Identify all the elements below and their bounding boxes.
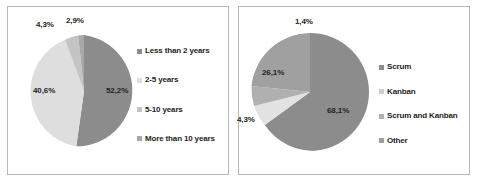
legend-item-more-than-10-years[interactable]: More than 10 years — [137, 135, 215, 143]
legend-swatch-icon — [379, 138, 384, 143]
legend-label: More than 10 years — [145, 135, 215, 143]
right-label-68: 68,1% — [327, 107, 349, 115]
legend-swatch-icon — [137, 49, 142, 54]
legend-swatch-icon — [379, 89, 384, 94]
legend-label: Scrum and Kanban — [387, 112, 458, 120]
two-pie-charts-figure: 52,2% 40,6% 4,3% 2,9% Less than 2 years … — [0, 0, 477, 182]
legend-swatch-icon — [137, 78, 142, 83]
legend-item-2-5-years[interactable]: 2-5 years — [137, 76, 215, 84]
left-legend: Less than 2 years 2-5 years 5-10 years M… — [137, 47, 215, 143]
right-label-4: 4,3% — [237, 116, 255, 124]
legend-label: Less than 2 years — [145, 47, 210, 55]
right-slice-other — [251, 33, 310, 92]
legend-swatch-icon — [379, 65, 384, 70]
legend-label: Kanban — [387, 88, 415, 96]
legend-item-5-10-years[interactable]: 5-10 years — [137, 106, 215, 114]
legend-item-scrum-and-kanban[interactable]: Scrum and Kanban — [379, 112, 458, 120]
legend-swatch-icon — [137, 107, 142, 112]
legend-item-other[interactable]: Other — [379, 137, 458, 145]
right-label-26: 26,1% — [262, 69, 284, 77]
legend-label: 2-5 years — [145, 76, 178, 84]
left-chart-panel: 52,2% 40,6% 4,3% 2,9% Less than 2 years … — [7, 6, 229, 175]
right-chart-panel: 68,1% 26,1% 4,3% 1,4% Scrum Kanban Scrum… — [238, 6, 470, 175]
legend-label: Scrum — [387, 63, 411, 71]
right-pie-svg — [251, 33, 369, 151]
legend-swatch-icon — [137, 136, 142, 141]
right-chart-area: 68,1% 26,1% 4,3% 1,4% Scrum Kanban Scrum… — [239, 7, 469, 174]
left-label-2: 2,9% — [66, 17, 84, 25]
right-legend: Scrum Kanban Scrum and Kanban Other — [379, 63, 458, 145]
right-label-1: 1,4% — [295, 18, 313, 26]
right-pie — [251, 33, 369, 151]
left-label-52: 52,2% — [106, 87, 128, 95]
legend-label: Other — [387, 137, 408, 145]
legend-item-scrum[interactable]: Scrum — [379, 63, 458, 71]
legend-swatch-icon — [379, 114, 384, 119]
left-chart-area: 52,2% 40,6% 4,3% 2,9% Less than 2 years … — [8, 7, 228, 174]
legend-item-less-than-2-years[interactable]: Less than 2 years — [137, 47, 215, 55]
legend-item-kanban[interactable]: Kanban — [379, 88, 458, 96]
legend-label: 5-10 years — [145, 106, 183, 114]
left-label-40: 40,6% — [33, 87, 55, 95]
left-label-4: 4,3% — [36, 21, 54, 29]
